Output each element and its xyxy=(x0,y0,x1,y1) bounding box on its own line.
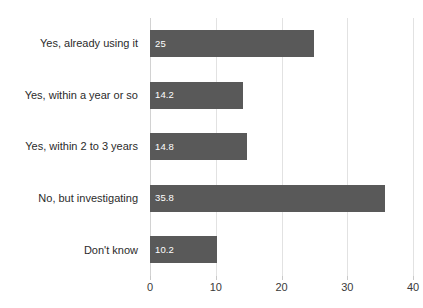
tick-label: 40 xyxy=(407,282,419,293)
bar-value-label: 14.8 xyxy=(155,142,174,152)
tick-mark xyxy=(150,276,151,280)
bar[interactable]: 35.8 xyxy=(150,185,385,212)
tick-label: 20 xyxy=(275,282,287,293)
bar-row: 14.8 xyxy=(150,121,413,173)
category-label: Yes, already using it xyxy=(0,18,144,70)
tick-label: 30 xyxy=(341,282,353,293)
tick-label: 0 xyxy=(147,282,153,293)
bar[interactable]: 25 xyxy=(150,30,314,57)
gridline-40 xyxy=(413,18,414,276)
bar[interactable]: 14.8 xyxy=(150,133,247,160)
bar[interactable]: 10.2 xyxy=(150,236,217,263)
bar-value-label: 25 xyxy=(155,39,166,49)
tick-mark xyxy=(413,276,414,280)
value-axis: 0 10 20 30 40 xyxy=(150,276,413,302)
tick-label: 10 xyxy=(210,282,222,293)
bar-chart: Yes, already using it Yes, within a year… xyxy=(0,0,423,308)
bar-row: 25 xyxy=(150,18,413,70)
plot-area: 25 14.2 14.8 35.8 10.2 xyxy=(150,18,413,276)
bar-row: 14.2 xyxy=(150,70,413,122)
bar-value-label: 10.2 xyxy=(155,245,174,255)
bars-group: 25 14.2 14.8 35.8 10.2 xyxy=(150,18,413,276)
tick-mark xyxy=(282,276,283,280)
category-label: Yes, within a year or so xyxy=(0,70,144,122)
bar-row: 10.2 xyxy=(150,224,413,276)
tick-mark xyxy=(347,276,348,280)
bar-value-label: 14.2 xyxy=(155,90,174,100)
tick-mark xyxy=(216,276,217,280)
category-label: Yes, within 2 to 3 years xyxy=(0,121,144,173)
category-label: Don't know xyxy=(0,224,144,276)
bar[interactable]: 14.2 xyxy=(150,82,243,109)
bar-value-label: 35.8 xyxy=(155,194,174,204)
category-axis-labels: Yes, already using it Yes, within a year… xyxy=(0,18,144,276)
bar-row: 35.8 xyxy=(150,173,413,225)
category-label: No, but investigating xyxy=(0,173,144,225)
